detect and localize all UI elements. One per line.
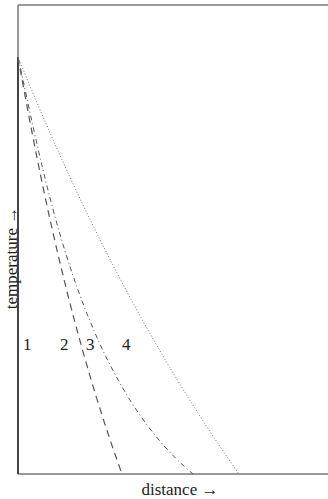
curve-label-3: 3 [86,335,95,355]
y-axis-label: temperature → [2,193,22,323]
curve-label-2: 2 [60,335,69,355]
curve-3 [18,57,193,474]
curve-label-4: 4 [122,335,131,355]
curve-label-1: 1 [23,335,32,355]
curve-4 [18,57,239,474]
x-axis-label: distance → [100,480,260,499]
curve-2 [18,57,122,474]
